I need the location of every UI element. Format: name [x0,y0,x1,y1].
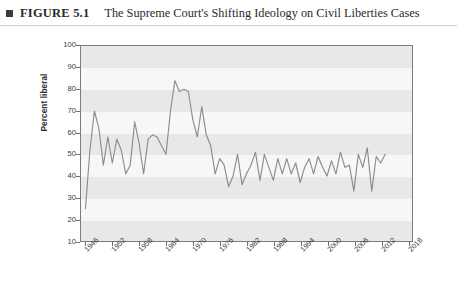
series-line-percent-liberal [81,46,412,241]
y-axis-tick-label: 10 [54,238,76,246]
y-axis-tick-labels: 102030405060708090100 [50,26,76,286]
y-axis-tick-label: 100 [54,41,76,49]
y-axis-tick-label: 40 [54,172,76,180]
y-axis-tick-label: 60 [54,129,76,137]
y-axis-tick-label: 50 [54,150,76,158]
y-axis-tick-label: 80 [54,85,76,93]
y-axis-tick-mark [76,242,80,243]
square-bullet-icon [6,10,13,17]
cropped-footer-text [0,278,457,286]
plot-frame [80,45,413,242]
y-axis-tick-label: 30 [54,194,76,202]
figure-caption-bar: FIGURE 5.1 The Supreme Court's Shifting … [0,0,457,26]
y-axis-tick-label: 70 [54,107,76,115]
figure-number-label: FIGURE 5.1 [20,6,89,21]
y-axis-tick-label: 90 [54,63,76,71]
y-axis-tick-label: 20 [54,216,76,224]
figure-container: FIGURE 5.1 The Supreme Court's Shifting … [0,0,457,286]
y-axis-title: Percent liberal [40,53,49,153]
chart-area: Percent liberal 102030405060708090100 19… [0,26,457,286]
figure-title: The Supreme Court's Shifting Ideology on… [104,6,419,21]
